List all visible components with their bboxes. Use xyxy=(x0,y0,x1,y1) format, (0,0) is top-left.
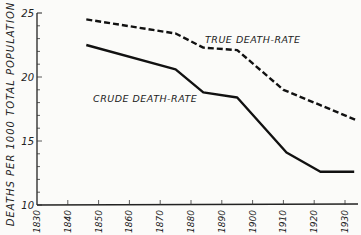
axes: 1015202518301840185018601870188018901900… xyxy=(21,8,358,233)
true-death-rate-label: TRUE DEATH-RATE xyxy=(205,34,301,45)
x-tick-label: 1870 xyxy=(155,210,165,233)
x-tick-label: 1920 xyxy=(309,210,319,233)
x-tick-label: 1860 xyxy=(124,210,134,233)
x-tick-label: 1910 xyxy=(278,210,288,233)
y-tick-label: 25 xyxy=(21,8,34,19)
crude-death-rate-line xyxy=(86,45,354,172)
x-tick-label: 1890 xyxy=(217,210,227,233)
x-tick-label: 1850 xyxy=(94,210,104,233)
x-tick-label: 1830 xyxy=(32,210,42,233)
labels: DEATHS PER 1000 TOTAL POPULATIONTRUE DEA… xyxy=(5,2,301,227)
x-tick-label: 1930 xyxy=(340,210,350,233)
y-tick-label: 10 xyxy=(21,200,34,211)
x-tick-label: 1900 xyxy=(248,210,258,233)
y-axis-title: DEATHS PER 1000 TOTAL POPULATION xyxy=(5,2,16,227)
x-tick-label: 1840 xyxy=(63,210,73,233)
x-axis xyxy=(37,204,358,205)
y-tick-label: 20 xyxy=(21,72,34,83)
death-rate-chart: 1015202518301840185018601870188018901900… xyxy=(0,0,361,235)
y-tick-label: 15 xyxy=(21,136,34,147)
x-tick-label: 1880 xyxy=(186,210,196,233)
crude-death-rate-label: CRUDE DEATH-RATE xyxy=(93,93,197,104)
